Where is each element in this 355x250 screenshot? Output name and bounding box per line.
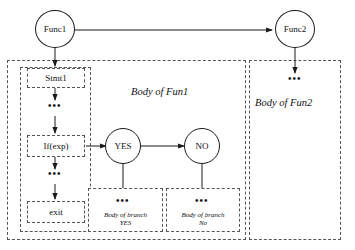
ellipsis-no-branch-gap: ••• — [195, 196, 209, 206]
node-func2[interactable]: Func2 — [275, 10, 315, 48]
stmt-box-ifexp[interactable]: If(exp) — [27, 135, 85, 157]
branch-no-line1: Body of branch — [181, 211, 224, 219]
ellipsis-stmt-gap: ••• — [48, 101, 62, 111]
stmt-box-stmt1[interactable]: Stmt1 — [27, 68, 85, 88]
fun2-container — [249, 60, 341, 240]
stmt-box-exit[interactable]: exit — [27, 201, 85, 223]
node-no[interactable]: NO — [184, 128, 220, 164]
ellipsis-exit-gap: ••• — [48, 169, 62, 179]
ellipsis-yes-branch-gap: ••• — [116, 196, 130, 206]
stmt-box-exit-label: exit — [49, 207, 63, 217]
node-func1[interactable]: Func1 — [35, 10, 75, 48]
flow-diagram: Func1 Func2 YES NO Stmt1 If(exp) exit Bo… — [0, 0, 355, 250]
branch-yes-line1: Body of branch — [104, 211, 147, 219]
fun1-body-label: Body of Fun1 — [131, 86, 188, 97]
node-yes-label: YES — [114, 141, 131, 151]
stmt-box-ifexp-label: If(exp) — [44, 141, 69, 151]
fun2-body-label: Body of Fun2 — [255, 97, 312, 108]
node-func2-label: Func2 — [284, 24, 307, 34]
ellipsis-fun2-gap: ••• — [288, 74, 302, 84]
node-no-label: NO — [196, 141, 209, 151]
branch-yes-line2: YES — [120, 219, 132, 227]
stmt-box-stmt1-label: Stmt1 — [45, 73, 67, 83]
branch-no-line2: No — [199, 219, 207, 227]
node-yes[interactable]: YES — [105, 128, 141, 164]
node-func1-label: Func1 — [44, 24, 67, 34]
